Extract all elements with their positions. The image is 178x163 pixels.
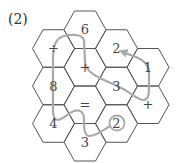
solution-path xyxy=(53,35,149,136)
cell-label: 6 xyxy=(81,22,89,37)
cell-label: 3 xyxy=(112,79,120,94)
cell-label: ÷ xyxy=(48,41,59,56)
cell-label: 2 xyxy=(112,41,120,56)
hex-grid-diagram: 6÷+2183=+423 xyxy=(0,0,178,163)
cell-label: 1 xyxy=(144,60,152,75)
cell-label: = xyxy=(80,97,91,112)
cell-label: 8 xyxy=(49,79,57,94)
cell-label: 2 xyxy=(112,116,120,131)
cell-label: 3 xyxy=(81,135,89,150)
cell-label: + xyxy=(80,60,91,75)
cell-label: + xyxy=(143,97,154,112)
cell-label: 4 xyxy=(49,116,57,131)
